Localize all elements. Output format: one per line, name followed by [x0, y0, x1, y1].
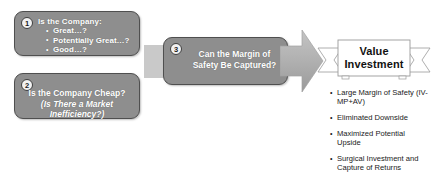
- list-item: Great…?: [53, 26, 129, 36]
- result-banner-label: Value Investment: [340, 45, 408, 71]
- step-number-badge-3: 3: [170, 43, 182, 55]
- diagram-canvas: 1 Is the Company: Great…? Potentially Gr…: [0, 0, 432, 193]
- step-2-question: Is the Company Cheap?: [15, 88, 139, 98]
- step-number-badge-1: 1: [21, 17, 33, 29]
- list-item: Surgical Investment and Capture of Retur…: [330, 154, 430, 172]
- result-banner: Value Investment: [316, 38, 432, 82]
- step-box-2[interactable]: 2 Is the Company Cheap? (Is There a Mark…: [14, 73, 140, 119]
- outcome-list: Large Margin of Safety (IV-MP+AV) Elimin…: [330, 88, 430, 179]
- list-item: Maximized Potential Upside: [330, 129, 430, 147]
- step-3-question: Can the Margin of Safety Be Captured?: [186, 49, 283, 70]
- list-item: Good…?: [53, 45, 129, 55]
- list-item: Large Margin of Safety (IV-MP+AV): [330, 88, 430, 106]
- list-item: Eliminated Downside: [330, 113, 430, 122]
- step-1-bullet-list: Great…? Potentially Great…? Good…?: [44, 26, 129, 55]
- step-2-subquestion: (Is There a Market Inefficiency?): [15, 99, 139, 119]
- list-item: Potentially Great…?: [53, 36, 129, 46]
- step-box-1[interactable]: 1 Is the Company: Great…? Potentially Gr…: [14, 11, 140, 56]
- step-box-3[interactable]: 3 Can the Margin of Safety Be Captured?: [163, 37, 288, 85]
